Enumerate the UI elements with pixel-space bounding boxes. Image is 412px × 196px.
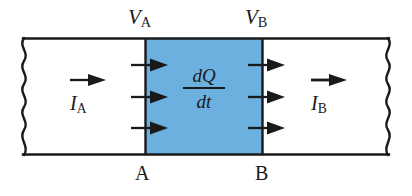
potential-b-subscript: B	[258, 14, 268, 30]
charge-rate-denominator: dt	[178, 89, 230, 111]
potential-label-a: VA	[128, 7, 151, 29]
current-label-out: IB	[311, 93, 327, 116]
physics-figure: VA VB A B IA IB dQ dt	[0, 0, 412, 196]
charge-rate-label: dQ dt	[178, 66, 230, 111]
section-label-b: B	[255, 163, 268, 183]
potential-a-symbol: V	[128, 5, 141, 29]
section-label-a: A	[135, 163, 149, 183]
current-out-subscript: B	[318, 101, 327, 116]
charge-rate-numerator: dQ	[178, 66, 230, 87]
current-in-symbol: I	[70, 92, 77, 114]
current-out-symbol: I	[311, 92, 318, 114]
potential-label-b: VB	[245, 7, 268, 29]
current-in-subscript: A	[77, 101, 87, 116]
potential-a-subscript: A	[141, 14, 152, 30]
potential-b-symbol: V	[245, 5, 258, 29]
current-label-in: IA	[70, 93, 87, 116]
